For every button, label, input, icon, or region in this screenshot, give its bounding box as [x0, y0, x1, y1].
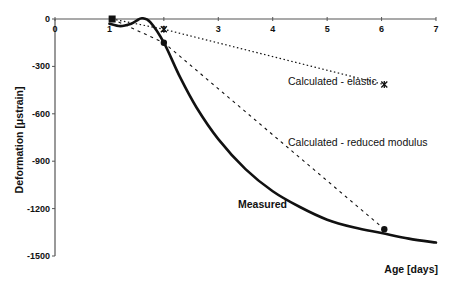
y-tick-label: -300	[32, 61, 50, 71]
start-square-marker	[109, 16, 116, 23]
x-tick-label: 5	[325, 24, 330, 34]
x-tick-label: 4	[270, 24, 275, 34]
y-tick-label: 0	[45, 14, 50, 24]
y-tick-label: -1500	[27, 251, 50, 261]
y-tick-label: -900	[32, 156, 50, 166]
x-tick-label: 0	[52, 24, 57, 34]
deformation-chart: 012345670-300-600-900-1200-1500 Calculat…	[0, 0, 456, 288]
x-tick-label: 3	[216, 24, 221, 34]
annotation-elastic: Calculated - elastic	[288, 75, 377, 87]
annotation-measured: Measured	[238, 198, 287, 210]
x-tick-label: 6	[379, 24, 384, 34]
y-tick-label: -600	[32, 109, 50, 119]
y-axis-label: Deformation [μstrain]	[13, 87, 25, 194]
x-tick-label: 7	[433, 24, 438, 34]
x-axis-label: Age [days]	[384, 263, 438, 275]
circle-marker	[381, 226, 387, 232]
annotation-reduced-modulus: Calculated - reduced modulus	[288, 136, 428, 148]
asterisk-marker	[381, 81, 387, 88]
y-tick-label: -1200	[27, 204, 50, 214]
